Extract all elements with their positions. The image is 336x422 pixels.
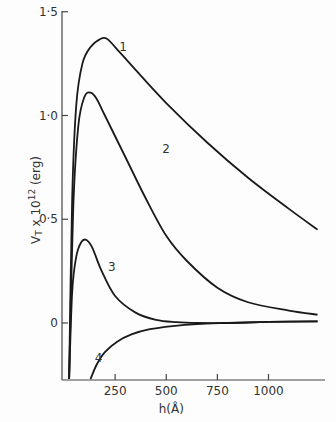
chart-svg: 00·51·01·52505007501000h(Å)VT x 1012 (er… xyxy=(0,0,336,422)
curve-label-2: 2 xyxy=(162,142,170,156)
y-tick-label: 1·0 xyxy=(39,109,58,123)
y-axis-label: VT x 1012 (erg) xyxy=(27,156,44,244)
x-axis-label: h(Å) xyxy=(159,401,184,416)
y-label-mid: x 10 xyxy=(29,200,43,230)
curve-label-4: 4 xyxy=(95,351,103,365)
y-tick-label: 1·5 xyxy=(39,5,58,19)
curve-4 xyxy=(91,321,318,379)
y-tick-label: 0 xyxy=(50,316,58,330)
curve-1 xyxy=(69,38,317,379)
y-label-end: (erg) xyxy=(29,156,43,189)
x-tick-label: 250 xyxy=(104,384,127,398)
y-label-sup: 12 xyxy=(27,189,37,200)
x-tick-label: 500 xyxy=(155,384,178,398)
curve-label-1: 1 xyxy=(119,40,127,54)
labels: 00·51·01·52505007501000h(Å)VT x 1012 (er… xyxy=(27,5,284,416)
x-tick-label: 750 xyxy=(206,384,229,398)
chart-figure: 00·51·01·52505007501000h(Å)VT x 1012 (er… xyxy=(0,0,336,422)
curve-2 xyxy=(69,92,317,379)
x-tick-label: 1000 xyxy=(253,384,284,398)
curve-label-3: 3 xyxy=(108,260,116,274)
curves xyxy=(69,38,317,379)
